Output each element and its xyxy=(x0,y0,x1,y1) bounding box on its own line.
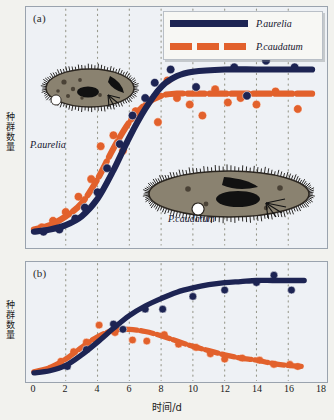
y-axis-char: 量 xyxy=(0,330,21,340)
data-point xyxy=(150,78,159,87)
data-point xyxy=(96,142,105,151)
data-point xyxy=(129,336,137,344)
data-point xyxy=(95,321,103,329)
figure-root: (a) 种 群 数 量 xyxy=(0,0,334,420)
y-axis-char: 数 xyxy=(0,320,21,330)
data-point xyxy=(159,305,167,313)
panel-b-svg xyxy=(26,262,327,382)
data-point xyxy=(189,293,197,301)
data-point xyxy=(192,83,201,92)
legend-swatch-caudatum xyxy=(170,43,248,50)
x-axis-title: 时间/d xyxy=(0,399,334,414)
data-point xyxy=(243,92,252,101)
paramecium-aurelia-svg xyxy=(38,62,142,114)
panel-b-label: (b) xyxy=(33,267,46,279)
species-label-caudatum: P.caudatum xyxy=(168,213,215,224)
panel-a-label: (a) xyxy=(33,12,46,24)
x-axis: 024681012141618 xyxy=(25,383,328,397)
data-point xyxy=(252,100,261,109)
paramecium-caudatum-illustration xyxy=(140,163,318,225)
legend-entry-aurelia: P.aurelia xyxy=(164,12,322,35)
data-point xyxy=(224,98,233,107)
data-point xyxy=(221,286,229,294)
trend-line xyxy=(34,329,304,372)
legend-swatch-aurelia xyxy=(170,20,248,27)
panel-a-y-axis-label: 种 群 数 量 xyxy=(0,112,21,152)
x-axis-tick: 14 xyxy=(248,383,266,394)
data-point xyxy=(288,286,296,294)
series-pcaudatum xyxy=(34,321,304,372)
x-axis-tick: 18 xyxy=(312,383,330,394)
y-axis-char: 种 xyxy=(0,112,21,122)
legend: P.aurelia P.caudatum xyxy=(163,11,323,60)
paramecium-aurelia-illustration xyxy=(38,62,142,114)
x-axis-tick: 10 xyxy=(184,383,202,394)
data-point xyxy=(294,105,303,114)
series-paurelia xyxy=(34,271,304,373)
y-axis-char: 群 xyxy=(0,122,21,132)
data-point xyxy=(154,118,163,127)
y-axis-char: 种 xyxy=(0,300,21,310)
x-axis-tick: 8 xyxy=(152,383,170,394)
x-axis-tick: 6 xyxy=(120,383,138,394)
x-axis-tick: 4 xyxy=(88,383,106,394)
y-axis-char: 量 xyxy=(0,142,21,152)
legend-label-caudatum: P.caudatum xyxy=(256,41,303,52)
x-axis-tick: 2 xyxy=(56,383,74,394)
y-axis-char: 数 xyxy=(0,132,21,142)
x-axis-tick: 12 xyxy=(216,383,234,394)
data-point xyxy=(166,65,175,74)
y-axis-char: 群 xyxy=(0,310,21,320)
species-label-aurelia: P.aurelia xyxy=(30,139,66,150)
panel-b-plot xyxy=(26,262,327,382)
legend-label-aurelia: P.aurelia xyxy=(256,18,292,29)
panel-b-y-axis-label: 种 群 数 量 xyxy=(0,300,21,340)
x-axis-tick: 0 xyxy=(24,383,42,394)
paramecium-caudatum-svg xyxy=(140,163,318,225)
data-point xyxy=(198,111,207,120)
legend-entry-caudatum: P.caudatum xyxy=(164,35,322,58)
data-points xyxy=(63,271,295,370)
data-point xyxy=(143,337,151,345)
data-point xyxy=(185,100,194,109)
x-axis-tick: 16 xyxy=(280,383,298,394)
data-point xyxy=(119,326,127,334)
panel-b xyxy=(25,261,328,383)
